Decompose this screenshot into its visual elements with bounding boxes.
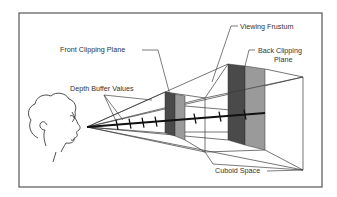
cuboid-space-label: Cuboid Space — [215, 166, 260, 175]
back-plane-gray — [245, 66, 265, 150]
depth-buffer-values-label: Depth Buffer Values — [70, 84, 134, 93]
front-clipping-plane — [165, 92, 185, 140]
viewing-frustum-label: Viewing Frustum — [240, 22, 293, 31]
front-plane-gray — [175, 94, 185, 140]
frustum-diagram: Front Clipping Plane Viewing Frustum Bac… — [0, 0, 337, 197]
back-clipping-plane — [228, 64, 265, 150]
front-plane-dark — [165, 92, 175, 136]
back-clipping-plane-label-line2: Plane — [274, 55, 292, 64]
front-clipping-plane-label: Front Clipping Plane — [60, 45, 125, 54]
back-plane-dark — [228, 64, 245, 145]
back-clipping-plane-label-line1: Back Clipping — [258, 46, 302, 55]
